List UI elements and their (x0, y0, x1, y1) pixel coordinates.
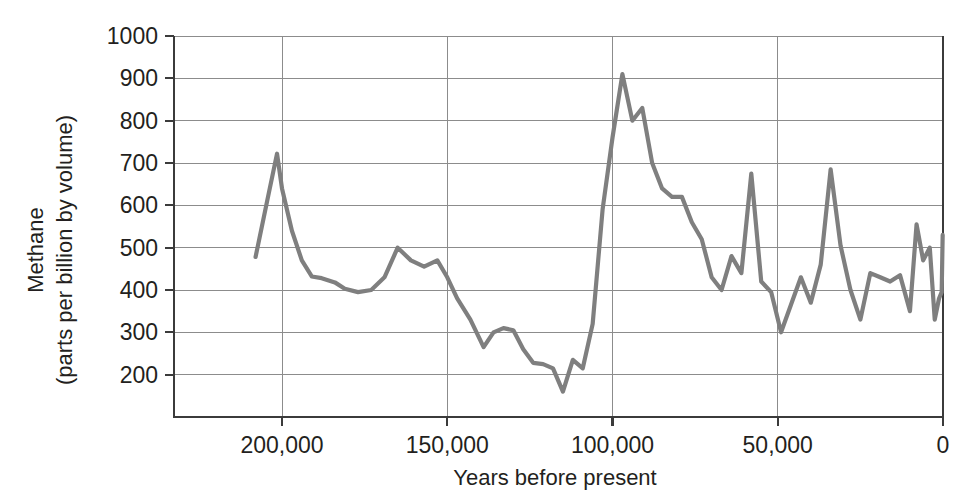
x-axis-tick-labels: 200,000150,000100,00050,0000 (240, 432, 949, 458)
methane-line-chart: 2003004005006007008009001000 200,000150,… (0, 0, 979, 500)
y-axis-tick-labels: 2003004005006007008009001000 (107, 23, 158, 388)
y-axis-tick-label: 1000 (107, 23, 158, 49)
x-axis-tick-label: 100,000 (571, 432, 654, 458)
x-axis-tick-label: 150,000 (406, 432, 489, 458)
y-axis-tick-label: 600 (120, 192, 158, 218)
x-axis-tick-label: 0 (937, 432, 950, 458)
y-axis-tick-label: 400 (120, 277, 158, 303)
y-axis-tick-label: 300 (120, 319, 158, 345)
x-axis-tick-label: 200,000 (240, 432, 323, 458)
x-axis-title: Years before present (453, 465, 656, 490)
y-axis-title-line2: (parts per billion by volume) (52, 115, 77, 385)
methane-chart-figure: 2003004005006007008009001000 200,000150,… (0, 0, 979, 500)
y-axis-tick-label: 900 (120, 65, 158, 91)
x-axis-tick-label: 50,000 (743, 432, 813, 458)
y-axis-tick-label: 500 (120, 235, 158, 261)
y-axis-tick-label: 200 (120, 362, 158, 388)
y-axis-tick-label: 800 (120, 108, 158, 134)
y-axis-title-line1: Methane (23, 207, 48, 293)
y-axis-tick-label: 700 (120, 150, 158, 176)
methane-data-line (256, 74, 943, 392)
